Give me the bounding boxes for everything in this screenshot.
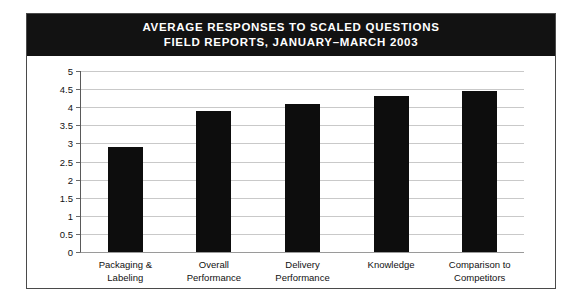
bar <box>285 104 320 252</box>
y-axis-tick <box>76 162 80 163</box>
bar <box>374 96 409 252</box>
x-axis-category-label-line: Labeling <box>99 272 152 285</box>
y-axis-tick-label: 0 <box>68 247 73 258</box>
x-axis-category-label-line: Packaging & <box>99 259 152 272</box>
x-axis-category-label: DeliveryPerformance <box>275 252 329 284</box>
x-axis-category-label: Packaging &Labeling <box>99 252 152 284</box>
bar <box>108 147 143 252</box>
chart-title-line-2: FIELD REPORTS, JANUARY–MARCH 2003 <box>164 35 419 50</box>
y-axis-tick-label: 2.5 <box>60 156 73 167</box>
x-axis-category-label-line: Knowledge <box>368 259 415 272</box>
y-axis-tick <box>76 125 80 126</box>
y-axis-tick <box>76 71 80 72</box>
y-axis-tick-label: 1.5 <box>60 192 73 203</box>
y-axis-tick-label: 3.5 <box>60 120 73 131</box>
y-axis-tick <box>76 234 80 235</box>
x-axis-category-label-line: Performance <box>187 272 241 285</box>
chart-title-line-1: AVERAGE RESPONSES TO SCALED QUESTIONS <box>142 20 439 35</box>
x-axis-category-label: OverallPerformance <box>187 252 241 284</box>
plot-area: 54.543.532.521.510.50Packaging &Labeling… <box>80 71 524 253</box>
y-axis-tick-label: 4 <box>68 102 73 113</box>
x-axis-category-label-line: Overall <box>187 259 241 272</box>
y-axis-tick-label: 2 <box>68 174 73 185</box>
y-axis-tick <box>76 89 80 90</box>
x-axis-category-label-line: Performance <box>275 272 329 285</box>
x-axis-category-label-line: Delivery <box>275 259 329 272</box>
bar <box>196 111 231 252</box>
y-axis-tick-label: 5 <box>68 66 73 77</box>
x-axis-category-label: Comparison toCompetitors <box>449 252 511 284</box>
gridline <box>81 71 524 72</box>
y-axis-tick <box>76 216 80 217</box>
y-axis-tick <box>76 198 80 199</box>
bar <box>462 91 497 252</box>
x-axis-category-label: Knowledge <box>368 252 415 272</box>
y-axis-tick-label: 0.5 <box>60 228 73 239</box>
y-axis-tick <box>76 107 80 108</box>
y-axis-tick-label: 4.5 <box>60 84 73 95</box>
y-axis-tick-label: 3 <box>68 138 73 149</box>
chart-body: 54.543.532.521.510.50Packaging &Labeling… <box>27 56 555 288</box>
x-axis-category-label-line: Comparison to <box>449 259 511 272</box>
gridline <box>81 89 524 90</box>
chart-title-banner: AVERAGE RESPONSES TO SCALED QUESTIONS FI… <box>27 14 555 56</box>
y-axis-tick <box>76 252 80 253</box>
y-axis-tick <box>76 143 80 144</box>
x-axis-category-label-line: Competitors <box>449 272 511 285</box>
chart-figure: AVERAGE RESPONSES TO SCALED QUESTIONS FI… <box>26 13 556 289</box>
y-axis-tick <box>76 180 80 181</box>
y-axis-tick-label: 1 <box>68 210 73 221</box>
